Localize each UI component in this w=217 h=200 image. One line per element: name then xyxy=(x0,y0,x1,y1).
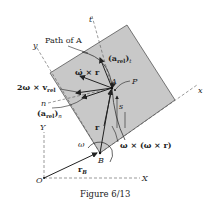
point-P-dot xyxy=(114,89,116,91)
label-omega: ω xyxy=(78,140,85,149)
point-B-dot xyxy=(99,152,101,154)
label-y: y xyxy=(32,41,38,50)
omega-arc-right xyxy=(110,150,113,162)
label-X: X xyxy=(141,174,148,183)
label-s: s xyxy=(119,102,123,111)
point-A-dot xyxy=(111,87,113,89)
point-O-dot xyxy=(43,177,45,179)
label-path-of-A: Path of A xyxy=(45,36,82,45)
label-B: B xyxy=(97,156,104,165)
label-Y: Y xyxy=(40,123,46,132)
label-P: P xyxy=(131,77,138,86)
figure-caption: Figure 6/13 xyxy=(80,189,130,199)
label-two-omega-v-rel: 2ω × vrel xyxy=(17,82,56,93)
label-omega-dot-cross-r: ω̇ × r xyxy=(75,67,100,77)
label-n: n xyxy=(41,99,46,108)
path-leader xyxy=(68,46,88,53)
figure-6-13: Path of A t y x (arel)t ω̇ × r A P 2ω × … xyxy=(0,0,217,200)
label-x: x xyxy=(198,86,203,95)
label-A: A xyxy=(110,77,117,86)
label-a-rel-n: (arel)n xyxy=(37,108,62,119)
label-O: O xyxy=(36,176,43,185)
label-r-B: rB xyxy=(78,164,87,175)
r-B-vector xyxy=(44,153,97,178)
label-omega-cross-omega-cross-r: ω × (ω × r) xyxy=(120,140,172,150)
